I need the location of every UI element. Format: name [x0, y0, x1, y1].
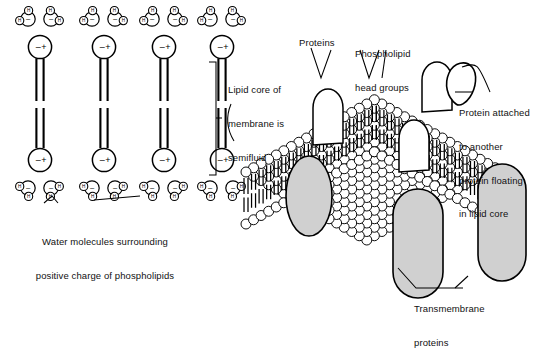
- attached-protein-line1: Protein attached: [459, 107, 541, 118]
- head-groups-label: Phospholipid head groups: [355, 26, 411, 104]
- lipid-core-label: Lipid core of membrane is semifluid: [228, 62, 298, 174]
- head-groups-line2: head groups: [355, 82, 411, 93]
- transmembrane-label: Transmembrane proteins: [414, 281, 524, 352]
- lipid-core-line3: semifluid: [228, 152, 298, 163]
- water-caption: Water molecules surrounding positive cha…: [12, 214, 198, 292]
- water-caption-line2: positive charge of phospholipids: [12, 270, 198, 281]
- phospholipid-molecule: [152, 35, 175, 148]
- attached-protein-line3: protein floating: [459, 175, 541, 186]
- proteins-leader: [311, 48, 331, 78]
- attached-protein-line2: to another: [459, 141, 541, 152]
- water-caption-line1: Water molecules surrounding: [12, 236, 198, 247]
- phospholipid-lower-leaflet: [28, 148, 233, 171]
- transmembrane-line2: proteins: [414, 337, 524, 348]
- phospholipid-upper-leaflet: [28, 35, 233, 148]
- dome-protein: [399, 120, 429, 172]
- left-bilayer-panel: [16, 7, 246, 204]
- head-groups-line1: Phospholipid: [355, 48, 411, 59]
- lipid-core-line2: membrane is: [228, 118, 298, 129]
- transmembrane-line1: Transmembrane: [414, 303, 524, 314]
- water-shell-upper: [16, 7, 246, 27]
- attached-protein-label: Protein attached to another protein floa…: [459, 85, 541, 231]
- proteins-label: Proteins: [299, 37, 335, 48]
- attached-protein-line4: in lipid core: [459, 208, 541, 219]
- phospholipid-molecule: [92, 35, 115, 148]
- phospholipid-molecule: [28, 35, 51, 148]
- lipid-core-line1: Lipid core of: [228, 84, 298, 95]
- dome-protein: [313, 89, 343, 145]
